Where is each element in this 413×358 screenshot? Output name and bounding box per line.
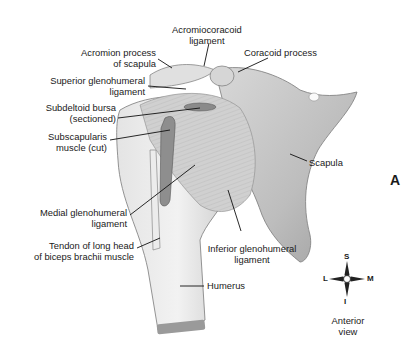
label-acromiocoracoid-ligament: Acromiocoracoidligament xyxy=(172,24,242,46)
acromion-shape xyxy=(150,65,215,88)
coracoid-shape xyxy=(210,66,234,86)
label-subscapularis-muscle: Subscapularismuscle (cut) xyxy=(30,131,107,153)
label-humerus: Humerus xyxy=(207,280,245,291)
label-biceps-tendon: Tendon of long headof biceps brachii mus… xyxy=(10,240,134,262)
compass-inferior: I xyxy=(344,297,346,306)
view-label: Anteriorview xyxy=(326,315,370,337)
label-superior-glenohumeral-ligament: Superior glenohumeralligament xyxy=(30,75,145,97)
label-subdeltoid-bursa: Subdeltoid bursa(sectioned) xyxy=(30,102,116,124)
label-medial-glenohumeral-ligament: Medial glenohumeralligament xyxy=(20,207,127,229)
label-scapula: Scapula xyxy=(309,157,343,168)
shoulder-joint-figure: Acromiocoracoidligament Coracoid process… xyxy=(0,0,413,358)
panel-label: A xyxy=(390,172,400,188)
compass-superior: S xyxy=(344,252,349,261)
compass-lateral: L xyxy=(323,274,328,283)
label-inferior-glenohumeral-ligament: Inferior glenohumeralligament xyxy=(198,243,306,265)
label-acromion-process: Acromion processof scapula xyxy=(60,47,156,69)
orientation-compass xyxy=(329,261,365,297)
compass-medial: M xyxy=(367,274,374,283)
label-coracoid-process: Coracoid process xyxy=(244,47,317,58)
scapular-notch xyxy=(309,93,319,101)
